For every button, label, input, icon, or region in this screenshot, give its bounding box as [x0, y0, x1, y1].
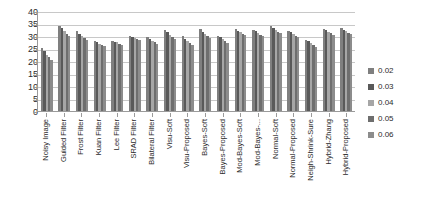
bar-group	[232, 12, 250, 111]
x-axis-tick-mark	[258, 113, 259, 117]
bar-group	[161, 12, 179, 111]
legend-label: 0.05	[378, 115, 394, 123]
legend-label: 0.06	[378, 131, 394, 139]
x-axis-label-cell: Mod-Bayes-...	[249, 113, 267, 213]
x-axis-tick-label: Visu-Proposed	[183, 119, 191, 168]
x-axis-tick-mark	[293, 113, 294, 117]
x-axis-label-cell: Bayes-Soft	[196, 113, 214, 213]
x-axis-label-cell: Guided Filter	[55, 113, 73, 213]
x-axis-labels: Noisy ImageGuided FilterFrost FilterKuan…	[37, 113, 355, 213]
legend-item[interactable]: 0.06	[368, 127, 394, 143]
bar-group	[214, 12, 232, 111]
bar	[68, 36, 70, 111]
bar-groups	[38, 12, 355, 111]
bar-group	[144, 12, 162, 111]
bar-chart: 4035302520151050 Noisy ImageGuided Filte…	[0, 0, 423, 219]
x-axis-tick-label: Visu-Soft	[166, 119, 174, 149]
legend-swatch-icon	[368, 68, 374, 74]
x-axis-tick-label: Kuan Filter	[95, 119, 103, 155]
bar-group	[267, 12, 285, 111]
x-axis-tick-label: Bayes-Soft	[201, 119, 209, 156]
x-axis-tick-mark	[170, 113, 171, 117]
x-axis-tick-label: Lee Filter	[113, 119, 121, 150]
x-axis-tick-mark	[99, 113, 100, 117]
legend-label: 0.02	[378, 67, 394, 75]
x-axis-label-cell: Bayes-Proposed	[214, 113, 232, 213]
bar-group	[196, 12, 214, 111]
bar-group	[38, 12, 56, 111]
x-axis-tick-mark	[311, 113, 312, 117]
x-axis-label-cell: Normal-Proposed	[284, 113, 302, 213]
x-axis-tick-mark	[187, 113, 188, 117]
bar	[262, 36, 264, 111]
x-axis-tick-label: Neigh-Shrink-Sure	[307, 119, 315, 181]
legend-swatch-icon	[368, 116, 374, 122]
bar-group	[56, 12, 74, 111]
x-axis-tick-mark	[329, 113, 330, 117]
x-axis-tick-mark	[152, 113, 153, 117]
x-axis-tick-mark	[64, 113, 65, 117]
x-axis-tick-mark	[276, 113, 277, 117]
x-axis-tick-label: Normal-Soft	[272, 119, 280, 159]
bar	[279, 33, 281, 111]
bar	[156, 44, 158, 111]
legend-item[interactable]: 0.05	[368, 111, 394, 127]
x-axis-label-cell: SRAD Filter	[125, 113, 143, 213]
x-axis-tick-label: Frost Filter	[77, 119, 85, 155]
x-axis-tick-label: Noisy Image	[42, 119, 50, 161]
x-axis-label-cell: Neigh-Shrink-Sure	[302, 113, 320, 213]
bar	[332, 35, 334, 112]
x-axis-label-cell: Kuan Filter	[90, 113, 108, 213]
x-axis-label-cell: Normal-Soft	[267, 113, 285, 213]
x-axis-label-cell: Hybrid-Proposed	[337, 113, 355, 213]
x-axis-label-cell: Hybrid-Zhang	[320, 113, 338, 213]
bar	[174, 39, 176, 111]
x-axis-label-cell: Lee Filter	[108, 113, 126, 213]
bar-group	[337, 12, 355, 111]
x-axis-tick-mark	[205, 113, 206, 117]
x-axis-label-cell: Bilateral Filter	[143, 113, 161, 213]
bar	[297, 37, 299, 111]
legend-swatch-icon	[368, 132, 374, 138]
x-axis-label-cell: Mod-Bayes-Soft	[231, 113, 249, 213]
x-axis-tick-label: Normal-Proposed	[289, 119, 297, 178]
bar	[86, 40, 88, 112]
x-axis-label-cell: Noisy Image	[37, 113, 55, 213]
bar	[244, 35, 246, 111]
bar-group	[179, 12, 197, 111]
x-axis-label-cell: Frost Filter	[72, 113, 90, 213]
bar	[103, 46, 105, 111]
legend-swatch-icon	[368, 100, 374, 106]
x-axis-tick-label: SRAD Filter	[130, 119, 138, 159]
x-axis-label-cell: Visu-Soft	[161, 113, 179, 213]
bar-group	[108, 12, 126, 111]
x-axis-tick-label: Hybrid-Zhang	[325, 119, 333, 164]
x-axis-tick-mark	[223, 113, 224, 117]
x-axis-tick-mark	[46, 113, 47, 117]
legend: 0.020.030.040.050.06	[368, 63, 394, 143]
x-axis-tick-label: Guided Filter	[60, 119, 68, 162]
legend-label: 0.03	[378, 83, 394, 91]
x-axis-tick-mark	[240, 113, 241, 117]
bar	[226, 43, 228, 111]
bar	[121, 45, 123, 112]
x-axis-tick-mark	[134, 113, 135, 117]
bar-group	[285, 12, 303, 111]
legend-item[interactable]: 0.04	[368, 95, 394, 111]
x-axis-tick-label: Mod-Bayes-...	[254, 119, 262, 166]
bar-group	[73, 12, 91, 111]
legend-item[interactable]: 0.03	[368, 79, 394, 95]
legend-item[interactable]: 0.02	[368, 63, 394, 79]
bar-group	[302, 12, 320, 111]
x-axis-tick-mark	[346, 113, 347, 117]
legend-swatch-icon	[368, 84, 374, 90]
bar	[50, 60, 52, 111]
bar	[209, 38, 211, 112]
bar	[138, 40, 140, 111]
x-axis-tick-label: Bayes-Proposed	[219, 119, 227, 174]
x-axis-tick-label: Mod-Bayes-Soft	[236, 119, 244, 173]
x-axis-tick-label: Bilateral Filter	[148, 119, 156, 165]
bar-group	[320, 12, 338, 111]
bar-group	[249, 12, 267, 111]
bar	[350, 34, 352, 111]
